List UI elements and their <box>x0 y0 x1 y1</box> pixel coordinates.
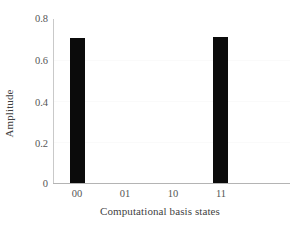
x-tick-label-11: 11 <box>201 187 241 200</box>
y-tick-label-0.8: 0.8 <box>8 14 48 24</box>
x-axis-spine <box>53 183 290 184</box>
bar-11 <box>213 37 228 183</box>
x-tick-label-01: 01 <box>105 187 145 200</box>
y-tick-label-0.6: 0.6 <box>8 56 48 66</box>
y-tick-label-0: 0 <box>8 179 48 189</box>
y-tick-label-0.2: 0.2 <box>8 139 48 149</box>
x-axis-title: Computational basis states <box>40 204 280 218</box>
plot-area <box>53 19 290 183</box>
x-tick-label-00: 00 <box>57 187 97 200</box>
y-axis-title: Amplitude <box>0 0 18 227</box>
bar-00 <box>70 38 85 183</box>
y-tick-label-0.4: 0.4 <box>8 98 48 108</box>
x-tick-label-10: 10 <box>153 187 193 200</box>
bar-chart-figure: Amplitude 0.8 0.6 0.4 0.2 0 00 01 10 11 … <box>0 0 300 227</box>
